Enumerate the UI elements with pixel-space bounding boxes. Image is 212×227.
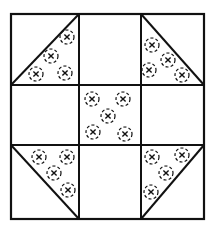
quilt-block-diagram [0,0,212,227]
